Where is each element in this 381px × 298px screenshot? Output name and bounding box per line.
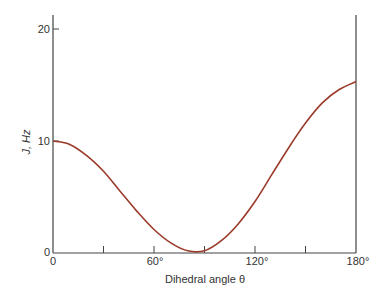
- y-tick-label-10: 10: [38, 135, 50, 147]
- x-tick-label-60: 60°: [147, 255, 164, 267]
- j-coupling-curve: [53, 82, 356, 252]
- x-tick-label-0: 0: [50, 255, 56, 267]
- x-axis-title: Dihedral angle θ: [165, 273, 245, 285]
- x-tick-label-180: 180°: [347, 255, 370, 267]
- chart-canvas: 20 10 0 0 60° 120° 180° Dihedral angle θ…: [0, 0, 381, 298]
- y-tick-label-20: 20: [38, 23, 50, 35]
- y-axis-title: J, Hz: [20, 129, 32, 156]
- x-tick-label-120: 120°: [246, 255, 269, 267]
